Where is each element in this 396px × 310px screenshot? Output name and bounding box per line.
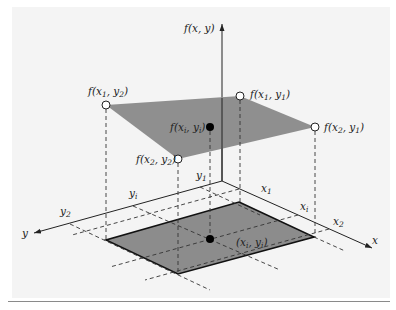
point-f-x2-y1: [311, 123, 319, 131]
tick-label-x1: x1: [261, 182, 272, 196]
y-axis-label: y: [21, 227, 29, 239]
tick-label-y2: y2: [59, 205, 71, 219]
point-f-x1-y2: [102, 101, 110, 109]
bilinear-interpolation-figure: f(x, y) f(x1, y2) f(x1, y1) f(x2, y1) f(…: [0, 0, 396, 310]
point-f-x1-y1: [236, 92, 244, 100]
point-f-xi-yi: [206, 123, 214, 131]
label-f-x2-y2: f(x2, y2): [135, 153, 176, 167]
point-xi-yi: [206, 235, 214, 243]
tick-label-xi: xi: [300, 200, 309, 214]
vertical-axis-label: f(x, y): [183, 22, 215, 34]
label-f-x1-y2: f(x1, y2): [87, 85, 128, 99]
label-f-x1-y1: f(x1, y1): [249, 88, 290, 102]
tick-label-x2: x2: [333, 215, 344, 229]
label-f-x2-y1: f(x2, y1): [323, 121, 364, 135]
tick-label-yi: yi: [128, 187, 138, 201]
label-xi-yi: (xi, yi): [236, 236, 268, 250]
tick-label-y1: y1: [195, 169, 207, 183]
x-axis-label: x: [372, 234, 378, 246]
